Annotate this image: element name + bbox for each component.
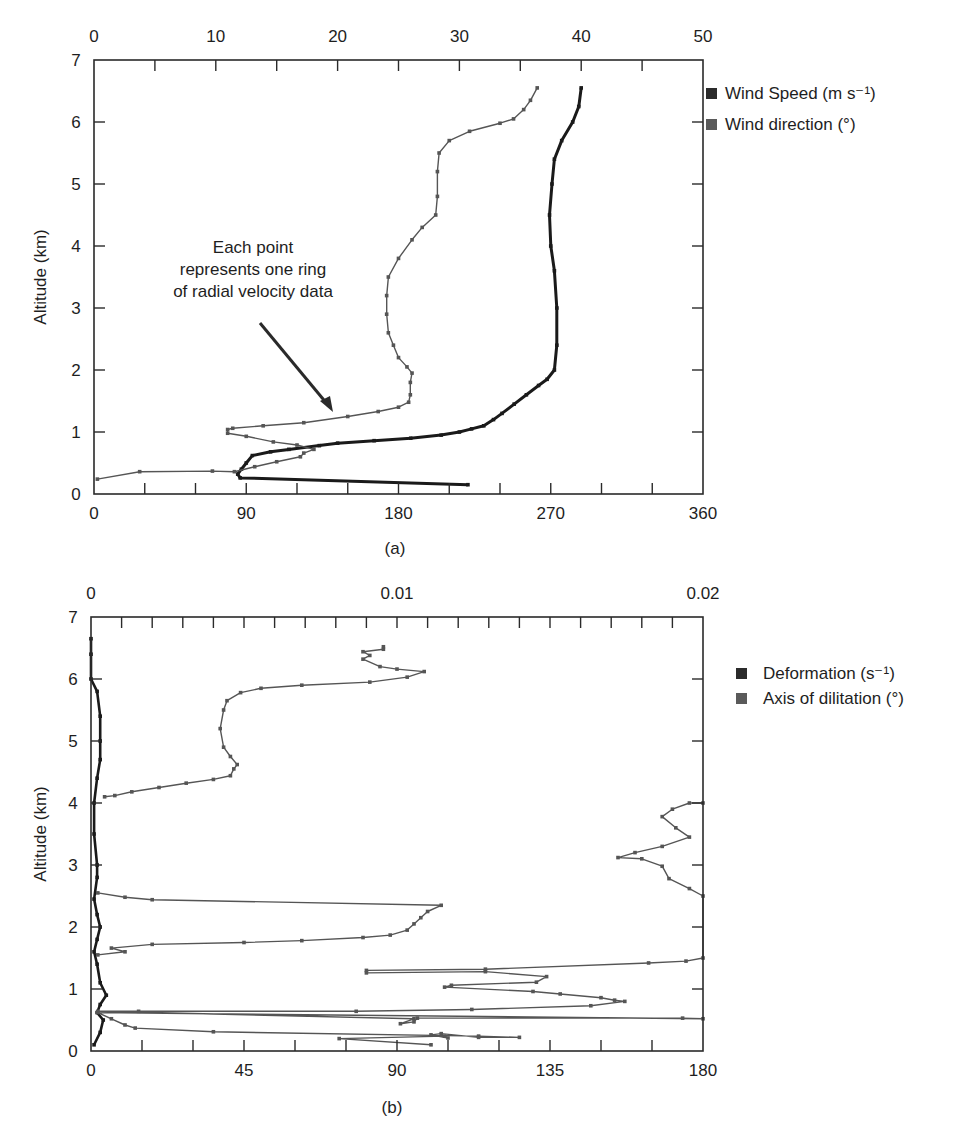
x-bottom-tick-label: 0: [89, 504, 98, 523]
data-point: [412, 1017, 416, 1021]
data-point: [354, 1010, 358, 1014]
legend-swatch-deformation: [736, 668, 747, 679]
data-point: [599, 996, 603, 1000]
data-point: [512, 402, 516, 406]
chart-b-deformation-profile: 0459013518000.010.0201234567 Altitude (k…: [31, 584, 904, 1117]
y-tick-label: 7: [68, 608, 77, 627]
data-point: [218, 727, 222, 731]
data-point: [436, 195, 440, 199]
data-point: [98, 714, 102, 718]
data-point: [395, 667, 399, 671]
data-point: [558, 992, 562, 996]
data-point: [372, 439, 376, 443]
data-point: [681, 1016, 685, 1020]
data-point: [688, 835, 692, 839]
data-point: [409, 436, 413, 440]
data-point: [123, 950, 127, 954]
data-point: [397, 257, 401, 261]
y-tick-label: 5: [68, 732, 77, 751]
data-point: [426, 910, 430, 914]
y-tick-label: 7: [71, 51, 80, 70]
data-point: [550, 182, 554, 186]
data-point: [439, 1032, 443, 1036]
data-point: [236, 472, 240, 476]
data-point: [98, 1031, 102, 1035]
data-point: [492, 418, 496, 422]
x-top-tick-label: 50: [694, 27, 713, 46]
data-point: [382, 645, 386, 649]
data-point: [470, 1008, 474, 1012]
data-point: [95, 690, 99, 694]
data-point: [95, 962, 99, 966]
data-point: [96, 891, 100, 895]
data-point: [244, 461, 248, 465]
data-point: [405, 928, 409, 932]
data-point: [397, 405, 401, 409]
data-point: [300, 939, 304, 943]
legend-label-axis-of-dilitation: Axis of dilitation (°): [763, 689, 904, 708]
data-point: [337, 1037, 341, 1041]
data-point: [229, 755, 233, 759]
data-point: [300, 683, 304, 687]
data-point: [251, 454, 255, 458]
data-point: [477, 1034, 481, 1038]
data-point: [387, 331, 391, 335]
data-point: [434, 213, 438, 217]
data-point: [103, 795, 107, 799]
data-point: [548, 213, 552, 217]
chart-a-axes: 0901802703600102030405001234567: [71, 27, 717, 523]
y-tick-label: 2: [68, 918, 77, 937]
data-point: [420, 226, 424, 230]
data-point: [361, 936, 365, 940]
data-point: [436, 170, 440, 174]
data-point: [259, 687, 263, 691]
data-point: [437, 151, 441, 155]
data-point: [123, 1023, 127, 1027]
data-point: [238, 476, 242, 480]
chart-b-ylabel: Altitude (km): [31, 786, 50, 881]
data-point: [346, 415, 350, 419]
data-point: [242, 941, 246, 945]
data-point: [531, 990, 535, 994]
data-point: [157, 786, 161, 790]
chart-a-panel-label: (a): [385, 539, 406, 558]
data-point: [549, 244, 553, 248]
data-point: [229, 774, 233, 778]
x-bottom-tick-label: 180: [689, 1061, 717, 1080]
y-tick-label: 1: [71, 423, 80, 442]
data-point: [92, 950, 96, 954]
data-point: [470, 427, 474, 431]
data-point: [361, 650, 365, 654]
data-point: [312, 448, 316, 452]
legend-label-deformation: Deformation (s⁻¹): [763, 664, 895, 683]
data-point: [422, 670, 426, 674]
data-point: [450, 983, 454, 987]
data-point: [660, 815, 664, 819]
data-point: [671, 807, 675, 811]
chart-a-ylabel: Altitude (km): [31, 229, 50, 324]
data-point: [95, 913, 99, 917]
data-point: [439, 904, 443, 908]
data-point: [589, 1004, 593, 1008]
data-point: [150, 898, 154, 902]
series-line: [105, 647, 425, 797]
data-point: [130, 790, 134, 794]
data-point: [92, 832, 96, 836]
data-point: [226, 431, 230, 435]
data-point: [667, 877, 671, 881]
chart-b-axes: 0459013518000.010.0201234567: [68, 584, 719, 1080]
data-point: [388, 933, 392, 937]
chart-a-annotation: Each point represents one ring of radial…: [173, 238, 333, 412]
data-point: [244, 435, 248, 439]
data-point: [522, 108, 526, 112]
data-point: [446, 1036, 450, 1040]
chart-b-legend: Deformation (s⁻¹) Axis of dilitation (°): [736, 664, 904, 708]
data-point: [95, 876, 99, 880]
data-point: [518, 1036, 522, 1040]
x-top-tick-label: 0: [86, 584, 95, 603]
data-point: [405, 365, 409, 369]
x-bottom-tick-label: 90: [388, 1061, 407, 1080]
data-point: [336, 441, 340, 445]
data-point: [553, 269, 557, 273]
plot-frame: [91, 617, 703, 1051]
